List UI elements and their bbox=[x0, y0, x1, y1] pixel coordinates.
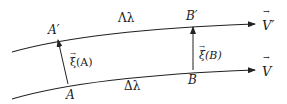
diagram-canvas: A′ B′ A B Λλ Δλ ξ(A) → ξ(B) → → V′ → V bbox=[0, 0, 287, 104]
xi-A-vec-arrow: → bbox=[70, 50, 76, 58]
V-prime-vec-arrow: → bbox=[263, 7, 270, 16]
label-V: V bbox=[262, 64, 273, 79]
V-vec-arrow: → bbox=[263, 53, 270, 62]
label-upper-param: Λλ bbox=[117, 11, 135, 25]
label-V-prime: V′ bbox=[262, 18, 274, 33]
xi-A-arrow bbox=[58, 40, 68, 84]
label-A-prime: A′ bbox=[47, 23, 60, 37]
label-lower-param: Δλ bbox=[124, 79, 141, 93]
label-A: A bbox=[65, 88, 75, 102]
xi-B-vec-arrow: → bbox=[199, 43, 205, 51]
label-B: B bbox=[187, 73, 197, 87]
label-B-prime: B′ bbox=[185, 9, 198, 23]
